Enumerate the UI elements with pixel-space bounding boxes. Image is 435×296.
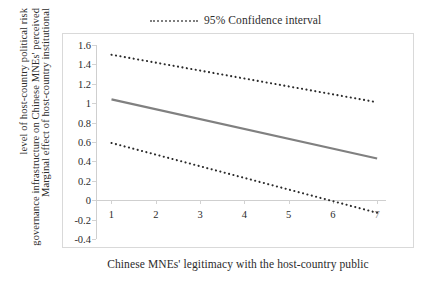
y-tick-mark: [92, 161, 96, 162]
y-tick-mark: [92, 220, 96, 221]
y-tick-mark: [92, 200, 96, 201]
x-axis-title: Chinese MNEs' legitimacy with the host-c…: [62, 258, 414, 270]
y-tick-mark: [92, 181, 96, 182]
y-tick-mark: [92, 64, 96, 65]
series-canvas: [63, 34, 415, 249]
y-tick-mark: [92, 84, 96, 85]
legend-label-confidence-interval: 95% Confidence interval: [204, 14, 321, 26]
chart-page: 95% Confidence interval level of host-co…: [0, 0, 435, 296]
y-axis-title-line-1: Marginal effect of host-country institut…: [41, 8, 52, 205]
y-tick-mark: [92, 142, 96, 143]
y-tick-mark: [92, 123, 96, 124]
y-tick-mark: [92, 239, 96, 240]
plot-area: -0.4-0.200.20.40.60.811.21.41.6 1234567: [62, 33, 414, 248]
y-tick-mark: [92, 45, 96, 46]
series-ci-upper: [111, 55, 377, 103]
y-tick-mark: [92, 103, 96, 104]
series-ci-lower: [111, 143, 377, 213]
dotted-line-marker-icon: [150, 20, 198, 22]
series-marginal-effect: [111, 99, 377, 158]
y-axis-title-line-3: level of host-country political risk: [19, 8, 30, 220]
chart-legend: 95% Confidence interval: [150, 14, 321, 26]
